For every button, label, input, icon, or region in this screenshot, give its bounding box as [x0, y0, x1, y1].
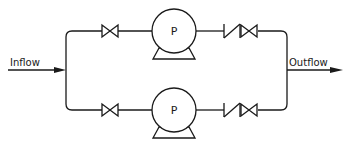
gate-valve-icon [241, 25, 257, 37]
inlet-manifold [66, 31, 102, 110]
inflow-label: Inflow [10, 57, 40, 68]
pump-icon: P [152, 88, 196, 138]
inflow-arrow-icon [54, 67, 66, 73]
train-bottom: P [102, 88, 257, 138]
piping-diagram: Inflow Outflow P [0, 0, 354, 151]
train-top: P [102, 9, 257, 59]
check-valve-icon [224, 24, 240, 38]
check-valve-icon [224, 103, 240, 117]
outlet-manifold [258, 31, 287, 110]
outflow-arrow-icon [330, 67, 343, 73]
pump-label: P [171, 25, 178, 38]
gate-valve-icon [241, 104, 257, 116]
pump-icon: P [152, 9, 196, 59]
pump-label: P [171, 104, 178, 117]
gate-valve-icon [102, 104, 118, 116]
gate-valve-icon [102, 25, 118, 37]
outflow-label: Outflow [289, 57, 328, 68]
